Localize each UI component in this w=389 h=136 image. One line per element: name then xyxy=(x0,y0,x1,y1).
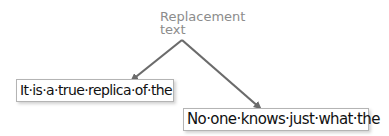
text-box-2[interactable]: No·one·knows·just·what·the xyxy=(183,108,369,131)
text-box-1[interactable]: It·is·a·true·replica·of·the xyxy=(16,79,174,102)
arrow-right-icon xyxy=(182,40,260,108)
arrow-left-icon xyxy=(132,40,182,80)
